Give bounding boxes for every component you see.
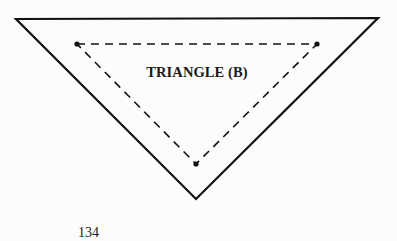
page-number: 134	[78, 225, 99, 241]
outer-triangle	[16, 18, 378, 199]
vertex-dot-top-right	[314, 41, 319, 46]
triangle-label: TRIANGLE (B)	[146, 64, 248, 81]
inner-dashed-triangle	[77, 44, 317, 164]
triangle-diagram	[0, 0, 397, 241]
vertex-dot-top-left	[74, 41, 79, 46]
vertex-dot-bottom	[193, 161, 198, 166]
